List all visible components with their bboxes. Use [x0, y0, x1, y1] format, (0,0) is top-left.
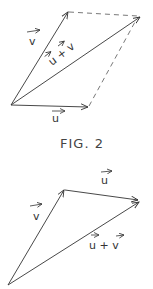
vector-u-arrow	[11, 105, 88, 107]
vector-u-arrow-bottom	[65, 190, 138, 200]
label-u-top: u	[52, 111, 65, 125]
label-v-top: v	[27, 30, 40, 48]
triangle-figure: u v u + v	[8, 171, 139, 285]
svg-text:u: u	[101, 174, 108, 187]
vector-v-arrow-bottom	[8, 190, 64, 285]
svg-text:u: u	[52, 112, 59, 125]
svg-text:v: v	[29, 35, 36, 48]
dashed-right-edge	[89, 22, 135, 106]
parallelogram-figure: v u u + v	[11, 12, 140, 125]
label-sum-bottom: u + v	[89, 235, 124, 252]
figure-caption: FIG. 2	[60, 136, 104, 151]
vector-addition-diagram: v u u + v FIG. 2 u v u + v	[0, 0, 153, 289]
svg-text:v: v	[33, 210, 40, 223]
dashed-top-edge	[69, 12, 138, 16]
svg-text:u + v: u + v	[46, 40, 78, 69]
vector-sum-arrow	[11, 17, 140, 105]
label-u-bottom: u	[101, 171, 112, 187]
vector-sum-arrow-bottom	[8, 202, 139, 285]
svg-text:u + v: u + v	[89, 239, 119, 252]
label-v-bottom: v	[30, 204, 42, 223]
